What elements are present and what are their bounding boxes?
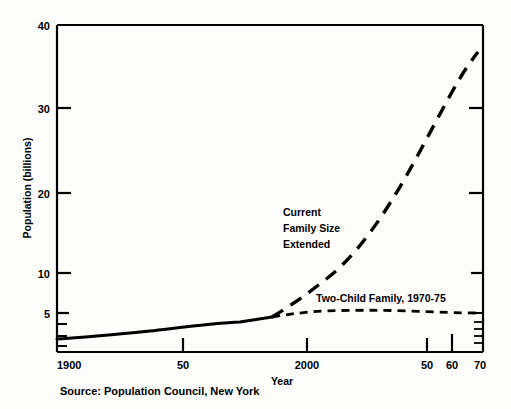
x-tick-label-1900: 1900 [57, 359, 81, 371]
y-tick-label-40: 40 [38, 20, 50, 32]
x-tick-label-1950: 50 [177, 359, 189, 371]
y-tick-label-20: 20 [38, 188, 50, 200]
series-two-child-family-line [272, 310, 478, 317]
y-axis-title: Population (billions) [21, 138, 33, 239]
y-axis-ticks-right [469, 108, 483, 343]
x-tick-label-2060: 60 [446, 359, 458, 371]
population-projection-figure: 40 30 20 10 5 Population (billions) 1900… [0, 0, 511, 409]
x-tick-label-2070: 70 [474, 359, 486, 371]
y-axis-ticks [57, 108, 71, 346]
series-current-family-extended-line [272, 52, 478, 317]
y-tick-label-10: 10 [38, 268, 50, 280]
annotation-current-line-1: Current [283, 206, 321, 218]
x-axis-ticks [183, 334, 452, 352]
source-note: Source: Population Council, New York [60, 385, 260, 397]
y-tick-label-5: 5 [44, 308, 50, 320]
x-tick-label-2000: 2000 [295, 359, 319, 371]
annotation-current-family-extended: Current Family Size Extended [283, 206, 340, 250]
x-tick-label-2050: 50 [421, 359, 433, 371]
y-tick-label-30: 30 [38, 103, 50, 115]
annotation-current-line-3: Extended [283, 238, 330, 250]
series-historical-line [57, 317, 272, 339]
x-axis-title: Year [271, 375, 293, 387]
annotation-current-line-2: Family Size [283, 222, 340, 234]
annotation-two-child-family: Two-Child Family, 1970-75 [316, 292, 446, 304]
chart-canvas: 40 30 20 10 5 Population (billions) 1900… [0, 0, 511, 409]
